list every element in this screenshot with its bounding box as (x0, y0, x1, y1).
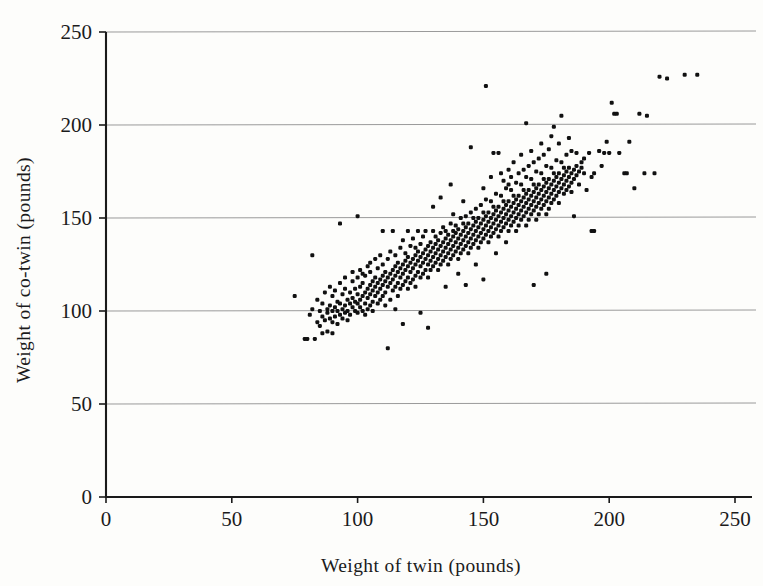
data-point (466, 231, 470, 235)
data-point (509, 175, 513, 179)
data-point (351, 279, 355, 283)
data-point (527, 197, 531, 201)
data-point (356, 276, 360, 280)
data-point (519, 153, 523, 157)
data-point (484, 223, 488, 227)
data-point (491, 205, 495, 209)
data-point (466, 240, 470, 244)
data-point (549, 183, 553, 187)
data-point (363, 302, 367, 306)
data-point (363, 313, 367, 317)
data-point (544, 199, 548, 203)
data-point (381, 263, 385, 267)
data-point (333, 289, 337, 293)
data-point (512, 160, 516, 164)
data-point (333, 315, 337, 319)
data-point (318, 309, 322, 313)
data-point (388, 272, 392, 276)
data-point (393, 285, 397, 289)
data-point (554, 175, 558, 179)
data-point (449, 248, 453, 252)
data-point (502, 216, 506, 220)
plot-canvas: 050100150200250 050100150200250 Weight o… (0, 0, 763, 586)
data-point (434, 251, 438, 255)
data-point (439, 263, 443, 267)
data-point (564, 170, 568, 174)
data-point (330, 331, 334, 335)
data-point (358, 305, 362, 309)
data-point (502, 199, 506, 203)
data-point (509, 205, 513, 209)
data-point (502, 225, 506, 229)
data-point (323, 290, 327, 294)
data-point (330, 294, 334, 298)
data-point (499, 229, 503, 233)
data-point (436, 238, 440, 242)
data-point (577, 170, 581, 174)
data-point (456, 227, 460, 231)
data-point (429, 249, 433, 253)
data-point (368, 303, 372, 307)
data-point (557, 201, 561, 205)
data-point (562, 166, 566, 170)
data-point (464, 225, 468, 229)
data-point (547, 207, 551, 211)
data-point (363, 290, 367, 294)
data-point (537, 201, 541, 205)
data-point (426, 244, 430, 248)
data-point (424, 229, 428, 233)
x-tick-label-50: 50 (221, 507, 242, 531)
data-point (522, 168, 526, 172)
data-point (519, 209, 523, 213)
data-point (486, 210, 490, 214)
data-point (383, 279, 387, 283)
data-point (527, 188, 531, 192)
data-point (315, 320, 319, 324)
data-point (476, 246, 480, 250)
data-point (386, 285, 390, 289)
data-point (451, 212, 455, 216)
data-point (600, 164, 604, 168)
data-point (642, 171, 646, 175)
data-point (529, 194, 533, 198)
data-point (406, 264, 410, 268)
data-point (368, 270, 372, 274)
data-point (471, 223, 475, 227)
data-point (507, 209, 511, 213)
data-point (517, 171, 521, 175)
data-point (328, 303, 332, 307)
data-point (592, 171, 596, 175)
data-point (325, 329, 329, 333)
data-point (552, 125, 556, 129)
data-point (557, 181, 561, 185)
data-point (356, 292, 360, 296)
data-point (451, 235, 455, 239)
data-point (522, 205, 526, 209)
data-point (466, 251, 470, 255)
data-point (497, 205, 501, 209)
data-point (476, 235, 480, 239)
data-point (552, 179, 556, 183)
data-point (504, 240, 508, 244)
data-point (580, 160, 584, 164)
data-point (557, 171, 561, 175)
data-point (471, 233, 475, 237)
data-point (343, 276, 347, 280)
data-point (358, 268, 362, 272)
data-point (459, 233, 463, 237)
data-point (421, 261, 425, 265)
data-point (391, 229, 395, 233)
data-point (413, 274, 417, 278)
data-point (537, 212, 541, 216)
data-point (456, 272, 460, 276)
data-point (564, 188, 568, 192)
data-point (658, 75, 662, 79)
data-point (413, 253, 417, 257)
data-point (615, 112, 619, 116)
data-point (310, 253, 314, 257)
data-point (469, 145, 473, 149)
data-point (494, 251, 498, 255)
data-point (431, 205, 435, 209)
data-point (534, 218, 538, 222)
data-point (398, 287, 402, 291)
